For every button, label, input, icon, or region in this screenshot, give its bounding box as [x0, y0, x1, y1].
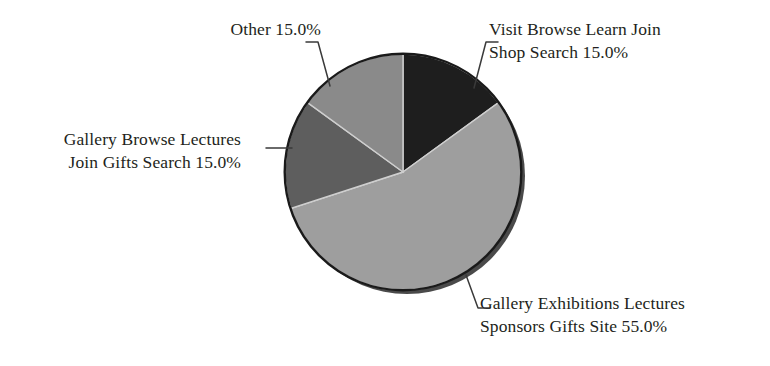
pie-slices [285, 54, 521, 290]
pie-label-line: Shop Search 15.0% [489, 41, 661, 64]
pie-label-line: Gallery Browse Lectures [64, 128, 241, 151]
pie-label-line: Sponsors Gifts Site 55.0% [480, 315, 685, 338]
pie-chart-figure: Visit Browse Learn Join Shop Search 15.0… [0, 0, 770, 366]
pie-label-line: Other 15.0% [230, 18, 321, 41]
pie-label-other: Other 15.0% [230, 18, 321, 41]
pie-label-line: Visit Browse Learn Join [489, 18, 661, 41]
pie-label-gallery-browse-lectures-join-gifts-search: Gallery Browse Lectures Join Gifts Searc… [64, 128, 241, 175]
pie-label-gallery-exhibitions-lectures-sponsors-gifts-site: Gallery Exhibitions Lectures Sponsors Gi… [480, 292, 685, 339]
leader-line-slice-3 [306, 42, 330, 86]
pie-label-visit-browse-learn-join-shop-search: Visit Browse Learn Join Shop Search 15.0… [489, 18, 661, 65]
pie-label-line: Join Gifts Search 15.0% [64, 151, 241, 174]
pie-label-line: Gallery Exhibitions Lectures [480, 292, 685, 315]
